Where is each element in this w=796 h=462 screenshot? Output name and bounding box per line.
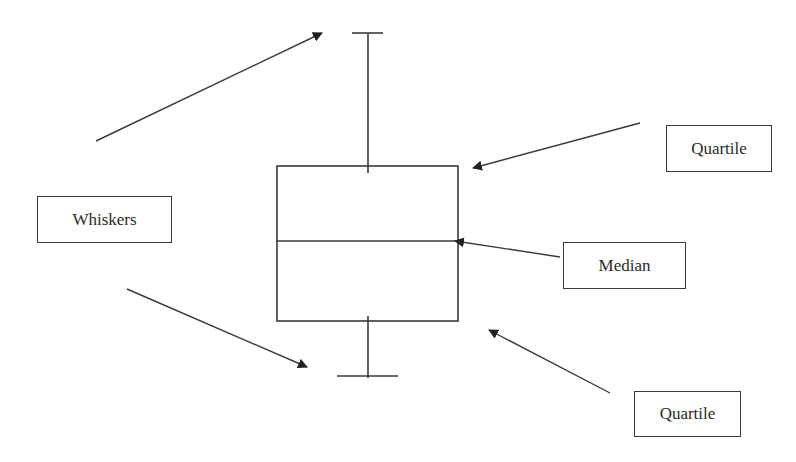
median-label: Median	[563, 242, 686, 289]
arrow-quartile-lower	[489, 330, 610, 393]
quartile-upper-label: Quartile	[666, 125, 772, 172]
interquartile-box	[277, 166, 458, 321]
arrow-quartile-upper	[473, 123, 640, 168]
median-label-text: Median	[599, 256, 651, 276]
whiskers-label-text: Whiskers	[72, 210, 136, 230]
whiskers-label: Whiskers	[37, 196, 172, 243]
arrow-whiskers-lower	[127, 289, 307, 367]
quartile-upper-label-text: Quartile	[691, 139, 747, 159]
arrow-median	[455, 241, 560, 257]
quartile-lower-label: Quartile	[634, 391, 741, 437]
quartile-lower-label-text: Quartile	[660, 404, 716, 424]
arrow-whiskers-upper	[96, 33, 322, 141]
